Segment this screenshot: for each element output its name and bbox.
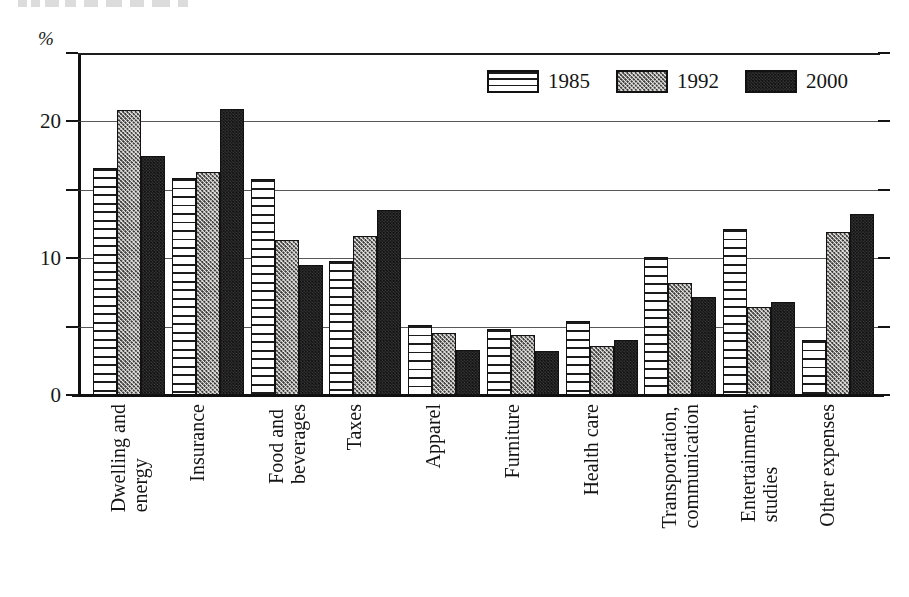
bar[interactable] — [408, 325, 432, 395]
category-label: Health care — [580, 404, 602, 496]
bar[interactable] — [251, 179, 275, 395]
y-tick-25 — [66, 52, 78, 54]
bar[interactable] — [511, 335, 535, 395]
bar[interactable] — [668, 283, 692, 395]
bar[interactable] — [590, 346, 614, 395]
bar[interactable] — [196, 172, 220, 395]
bar[interactable] — [850, 214, 874, 395]
category-label: Apparel — [422, 404, 444, 468]
bar[interactable] — [747, 307, 771, 395]
legend-item-1992[interactable]: 1992 — [616, 70, 719, 93]
bar[interactable] — [329, 261, 353, 395]
legend-swatch-1985-icon — [487, 70, 539, 93]
y-tick-label-0: 0 — [51, 385, 62, 406]
bar[interactable] — [535, 351, 559, 395]
legend-label-2000: 2000 — [806, 71, 848, 92]
category-label: Insurance — [186, 404, 208, 482]
bar[interactable] — [141, 156, 165, 395]
y-axis-unit-label: % — [38, 28, 54, 50]
y-tick-5 — [66, 326, 78, 328]
plot-area: % 01020 — [78, 53, 880, 395]
y-tick-15 — [66, 189, 78, 191]
bar[interactable] — [802, 340, 826, 395]
bar[interactable] — [456, 350, 480, 395]
category-label: Transportation, communication — [658, 404, 703, 528]
category-label: Other expenses — [816, 404, 838, 527]
bar-group — [408, 53, 480, 395]
bar[interactable] — [432, 333, 456, 395]
bar-group — [93, 53, 165, 395]
category-label: Food and beverages — [265, 404, 310, 484]
bar[interactable] — [771, 302, 795, 395]
category-label: Entertainment, studies — [737, 404, 782, 522]
category-label: Furniture — [501, 404, 523, 478]
x-axis-category-labels: Dwelling and energyInsuranceFood and bev… — [78, 404, 880, 594]
bar-chart: % 01020 1985 1992 2000 Dwelling and ener… — [0, 0, 909, 597]
bar[interactable] — [93, 168, 117, 395]
bar[interactable] — [377, 210, 401, 395]
bar-group — [329, 53, 401, 395]
bar-group — [172, 53, 244, 395]
legend-label-1985: 1985 — [548, 71, 590, 92]
legend: 1985 1992 2000 — [487, 70, 848, 93]
bar[interactable] — [614, 340, 638, 395]
bar-group — [723, 53, 795, 395]
bar[interactable] — [644, 257, 668, 395]
legend-swatch-1992-icon — [616, 70, 668, 93]
bars-layer — [78, 53, 880, 395]
category-label: Taxes — [343, 404, 365, 450]
y-tick-0 — [66, 394, 78, 396]
y-tick-label-10: 10 — [40, 248, 61, 269]
bar[interactable] — [299, 265, 323, 395]
bar-group — [251, 53, 323, 395]
bar-group — [487, 53, 559, 395]
bar-group — [644, 53, 716, 395]
legend-item-2000[interactable]: 2000 — [745, 70, 848, 93]
legend-label-1992: 1992 — [677, 71, 719, 92]
legend-swatch-2000-icon — [745, 70, 797, 93]
bar[interactable] — [566, 321, 590, 395]
bar[interactable] — [487, 329, 511, 395]
bar[interactable] — [220, 109, 244, 395]
bar-group — [566, 53, 638, 395]
bar-group — [802, 53, 874, 395]
category-label: Dwelling and energy — [107, 404, 152, 512]
bar[interactable] — [723, 229, 747, 395]
y-tick-10 — [66, 257, 78, 259]
bar[interactable] — [275, 240, 299, 395]
bar[interactable] — [172, 178, 196, 396]
y-tick-label-20: 20 — [40, 111, 61, 132]
bar[interactable] — [353, 236, 377, 395]
bar[interactable] — [117, 110, 141, 395]
bar[interactable] — [692, 297, 716, 395]
bar[interactable] — [826, 232, 850, 395]
legend-item-1985[interactable]: 1985 — [487, 70, 590, 93]
y-tick-20 — [66, 120, 78, 122]
